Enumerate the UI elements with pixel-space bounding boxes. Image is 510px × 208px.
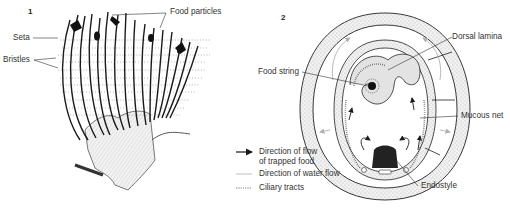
- panel-2-number: 2: [281, 13, 285, 22]
- diagram-artwork: [0, 0, 510, 208]
- legend-item-trapped-food: Direction of flow of trapped food: [259, 147, 317, 167]
- panel-1-number: 1: [28, 7, 32, 16]
- legend-text-line1: Ciliary tracts: [259, 183, 304, 193]
- label-endostyle: Endostyle: [421, 182, 457, 190]
- setae-fan-illustration: [58, 12, 210, 190]
- label-seta: Seta: [13, 34, 30, 42]
- label-food-string: Food string: [258, 68, 299, 76]
- legend-text-line1: Direction of flow: [259, 147, 317, 157]
- label-dorsal-lamina: Dorsal lamina: [452, 33, 502, 41]
- label-food-particles: Food particles: [170, 8, 221, 16]
- legend-text-line2: of trapped food: [259, 157, 317, 167]
- legend-text-line1: Direction of water flow: [259, 169, 340, 179]
- legend-item-ciliary-tracts: Ciliary tracts: [259, 183, 304, 193]
- label-mucous-net: Mucous net: [461, 112, 503, 120]
- label-bristles: Bristles: [3, 56, 30, 64]
- legend-item-water-flow: Direction of water flow: [259, 169, 340, 179]
- legend-icons: [236, 152, 252, 188]
